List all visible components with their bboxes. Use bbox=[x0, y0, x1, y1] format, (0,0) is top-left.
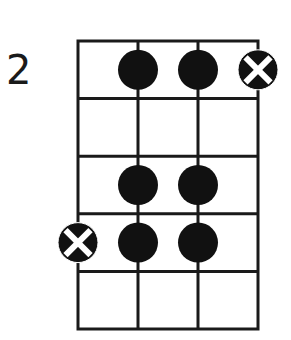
root-x-marker-icon bbox=[238, 50, 278, 90]
finger-dot bbox=[118, 223, 158, 263]
finger-dot bbox=[178, 165, 218, 205]
fretboard-grid bbox=[78, 41, 258, 329]
finger-dot bbox=[118, 165, 158, 205]
fretboard-diagram bbox=[0, 0, 291, 340]
finger-dot bbox=[178, 50, 218, 90]
finger-dot bbox=[178, 223, 218, 263]
finger-dot bbox=[118, 50, 158, 90]
root-x-marker-icon bbox=[58, 223, 98, 263]
fretboard-outline bbox=[78, 41, 258, 329]
